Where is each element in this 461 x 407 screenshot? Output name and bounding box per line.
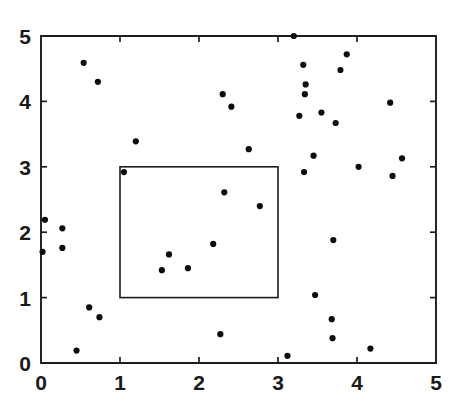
data-point [59, 225, 65, 231]
data-point [210, 241, 216, 247]
x-tick-label-5: 5 [430, 371, 442, 394]
data-point [81, 60, 87, 66]
y-tick-label-1: 1 [19, 287, 31, 310]
data-point [133, 138, 139, 144]
data-point [96, 314, 102, 320]
data-point [257, 203, 263, 209]
data-point [86, 304, 92, 310]
y-tick-label-0: 0 [19, 352, 31, 375]
data-point [389, 173, 395, 179]
scatter-plot-figure: 012345 012345 [0, 0, 461, 407]
data-point [221, 189, 227, 195]
data-point [166, 251, 172, 257]
data-point [39, 249, 45, 255]
data-point [185, 265, 191, 271]
data-point [330, 237, 336, 243]
data-point [301, 169, 307, 175]
data-point [310, 153, 316, 159]
plot-canvas: 012345 012345 [0, 0, 461, 407]
y-tick-label-2: 2 [19, 221, 31, 244]
data-point [42, 217, 48, 223]
inner-window-rectangle [120, 167, 278, 298]
data-point [387, 100, 393, 106]
x-tick-label-2: 2 [193, 371, 205, 394]
data-point [312, 292, 318, 298]
data-point [344, 51, 350, 57]
data-point [367, 346, 373, 352]
axis-tick-marks [41, 36, 436, 363]
data-point [228, 104, 234, 110]
data-point [300, 62, 306, 68]
data-point [329, 335, 335, 341]
y-tick-label-4: 4 [19, 90, 31, 113]
data-point [333, 120, 339, 126]
x-tick-label-1: 1 [114, 371, 126, 394]
data-point [246, 146, 252, 152]
data-point [329, 316, 335, 322]
data-point [355, 164, 361, 170]
data-point [399, 155, 405, 161]
y-tick-label-5: 5 [19, 25, 31, 48]
axis-frame [41, 36, 436, 363]
data-point [121, 169, 127, 175]
data-point [159, 267, 165, 273]
data-point [95, 79, 101, 85]
y-axis-tick-labels: 012345 [19, 25, 31, 375]
data-point [302, 91, 308, 97]
data-points-group [39, 33, 405, 359]
data-point [303, 81, 309, 87]
data-point [296, 113, 302, 119]
x-tick-label-0: 0 [35, 371, 47, 394]
data-point [337, 67, 343, 73]
data-point [220, 91, 226, 97]
x-tick-label-4: 4 [351, 371, 363, 394]
x-axis-tick-labels: 012345 [35, 371, 442, 394]
data-point [284, 353, 290, 359]
x-tick-label-3: 3 [272, 371, 284, 394]
data-point [73, 347, 79, 353]
data-point [291, 33, 297, 39]
data-point [217, 331, 223, 337]
data-point [318, 109, 324, 115]
data-point [59, 245, 65, 251]
y-tick-label-3: 3 [19, 156, 31, 179]
